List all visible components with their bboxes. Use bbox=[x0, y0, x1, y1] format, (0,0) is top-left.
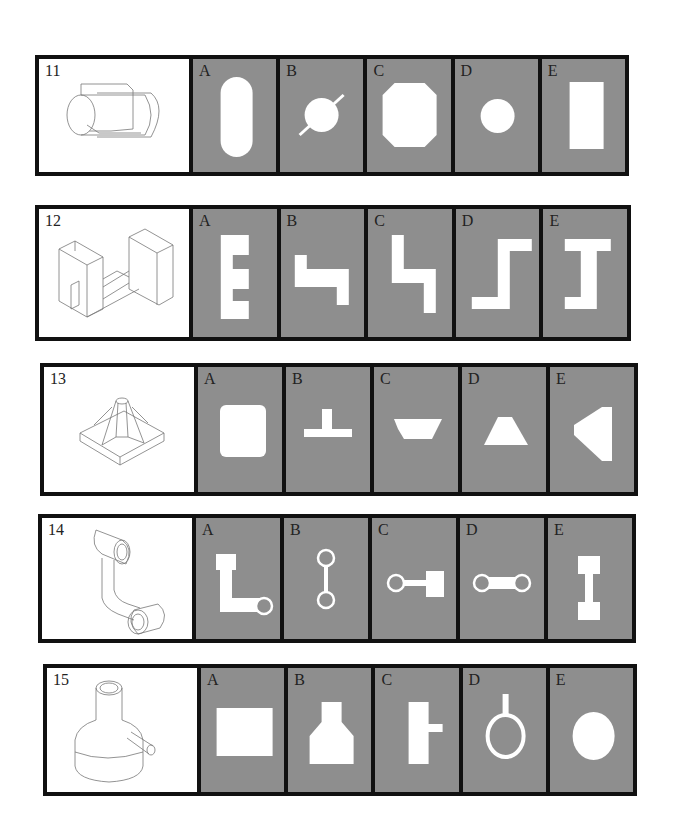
option-b[interactable]: B bbox=[280, 59, 363, 172]
rounded-slot-vertical-icon bbox=[193, 59, 276, 172]
question-row-13: 13 A B C D E bbox=[40, 363, 638, 496]
bottle-silhouette-icon bbox=[288, 668, 371, 792]
option-c[interactable]: C bbox=[367, 59, 450, 172]
pyramid-base-with-post-icon bbox=[44, 367, 194, 492]
question-drawing-cell: 14 bbox=[42, 518, 192, 639]
option-e[interactable]: E bbox=[542, 59, 625, 172]
option-e[interactable]: E bbox=[543, 209, 627, 337]
option-c[interactable]: C bbox=[375, 668, 458, 792]
vertical-rectangle-icon bbox=[542, 59, 625, 172]
option-b[interactable]: B bbox=[286, 367, 370, 492]
option-c[interactable]: C bbox=[372, 518, 456, 639]
vertical-dumbbell-squares-icon bbox=[548, 518, 632, 639]
option-a[interactable]: A bbox=[193, 209, 277, 337]
small-circle-icon bbox=[455, 59, 538, 172]
option-a[interactable]: A bbox=[193, 59, 276, 172]
option-a[interactable]: A bbox=[196, 518, 280, 639]
circle-with-diagonal-line-icon bbox=[280, 59, 363, 172]
option-d[interactable]: D bbox=[463, 668, 546, 792]
option-c[interactable]: C bbox=[368, 209, 452, 337]
cylinder-with-flat-flange-icon bbox=[39, 59, 189, 172]
option-d[interactable]: D bbox=[455, 59, 538, 172]
option-e[interactable]: E bbox=[548, 518, 632, 639]
inverted-trapezoid-icon bbox=[374, 367, 458, 492]
question-drawing-cell: 11 bbox=[39, 59, 189, 172]
question-drawing-cell: 15 bbox=[47, 668, 197, 792]
option-c[interactable]: C bbox=[374, 367, 458, 492]
question-drawing-cell: 13 bbox=[44, 367, 194, 492]
rectangle-with-side-tab-icon bbox=[375, 668, 458, 792]
option-b[interactable]: B bbox=[281, 209, 365, 337]
bent-link-with-two-bushings-icon bbox=[42, 518, 192, 639]
h-shaped-block-isometric-icon bbox=[39, 209, 189, 337]
option-d[interactable]: D bbox=[460, 518, 544, 639]
option-a[interactable]: A bbox=[198, 367, 282, 492]
trapezoid-icon bbox=[462, 367, 546, 492]
question-row-15: 15 A B C D E bbox=[43, 664, 637, 796]
bottle-with-side-pipe-icon bbox=[47, 668, 197, 792]
question-row-11: 11 A B C D E bbox=[35, 55, 629, 176]
rounded-square-icon bbox=[198, 367, 282, 492]
question-drawing-cell: 12 bbox=[39, 209, 189, 337]
option-e[interactable]: E bbox=[550, 367, 634, 492]
e-shape-icon bbox=[193, 209, 277, 337]
ring-bar-square-icon bbox=[372, 518, 456, 639]
option-a[interactable]: A bbox=[201, 668, 284, 792]
octagon-icon bbox=[367, 59, 450, 172]
question-row-12: 12 A B C D E bbox=[35, 205, 631, 341]
ring-with-stem-icon bbox=[463, 668, 546, 792]
s-step-vertical-icon bbox=[456, 209, 540, 337]
option-b[interactable]: B bbox=[284, 518, 368, 639]
question-row-14: 14 A B C D bbox=[38, 514, 636, 643]
option-b[interactable]: B bbox=[288, 668, 371, 792]
left-pointing-trapezoid-icon bbox=[550, 367, 634, 492]
z-step-vertical-icon bbox=[368, 209, 452, 337]
vertical-dumbbell-rings-icon bbox=[284, 518, 368, 639]
l-link-with-ring-icon bbox=[196, 518, 280, 639]
option-d[interactable]: D bbox=[462, 367, 546, 492]
option-e[interactable]: E bbox=[550, 668, 633, 792]
z-step-horizontal-icon bbox=[281, 209, 365, 337]
ellipse-icon bbox=[550, 668, 633, 792]
horizontal-dumbbell-rings-icon bbox=[460, 518, 544, 639]
i-beam-shape-icon bbox=[543, 209, 627, 337]
wide-rectangle-icon bbox=[201, 668, 284, 792]
inverted-t-icon bbox=[286, 367, 370, 492]
option-d[interactable]: D bbox=[456, 209, 540, 337]
